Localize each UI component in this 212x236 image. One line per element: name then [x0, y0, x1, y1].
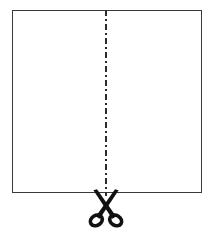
scissors-pivot: [105, 203, 108, 206]
diagram-canvas: [0, 0, 212, 236]
scissors-handle-left: [88, 213, 104, 228]
scissors-handle-right: [108, 213, 124, 228]
cut-in-half-diagram: [0, 0, 212, 236]
